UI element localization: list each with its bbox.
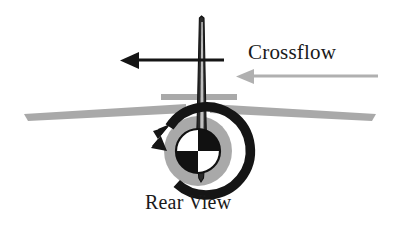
crossflow-label: Crossflow [248,40,336,65]
left-wing [24,104,186,121]
rear-view-label: Rear View [145,191,231,214]
propeller-spinner-quadrants [176,129,220,173]
crossflow-arrow [236,69,378,84]
side-force-arrow [120,52,224,69]
figure-canvas: Crossflow Rear View [0,0,400,231]
